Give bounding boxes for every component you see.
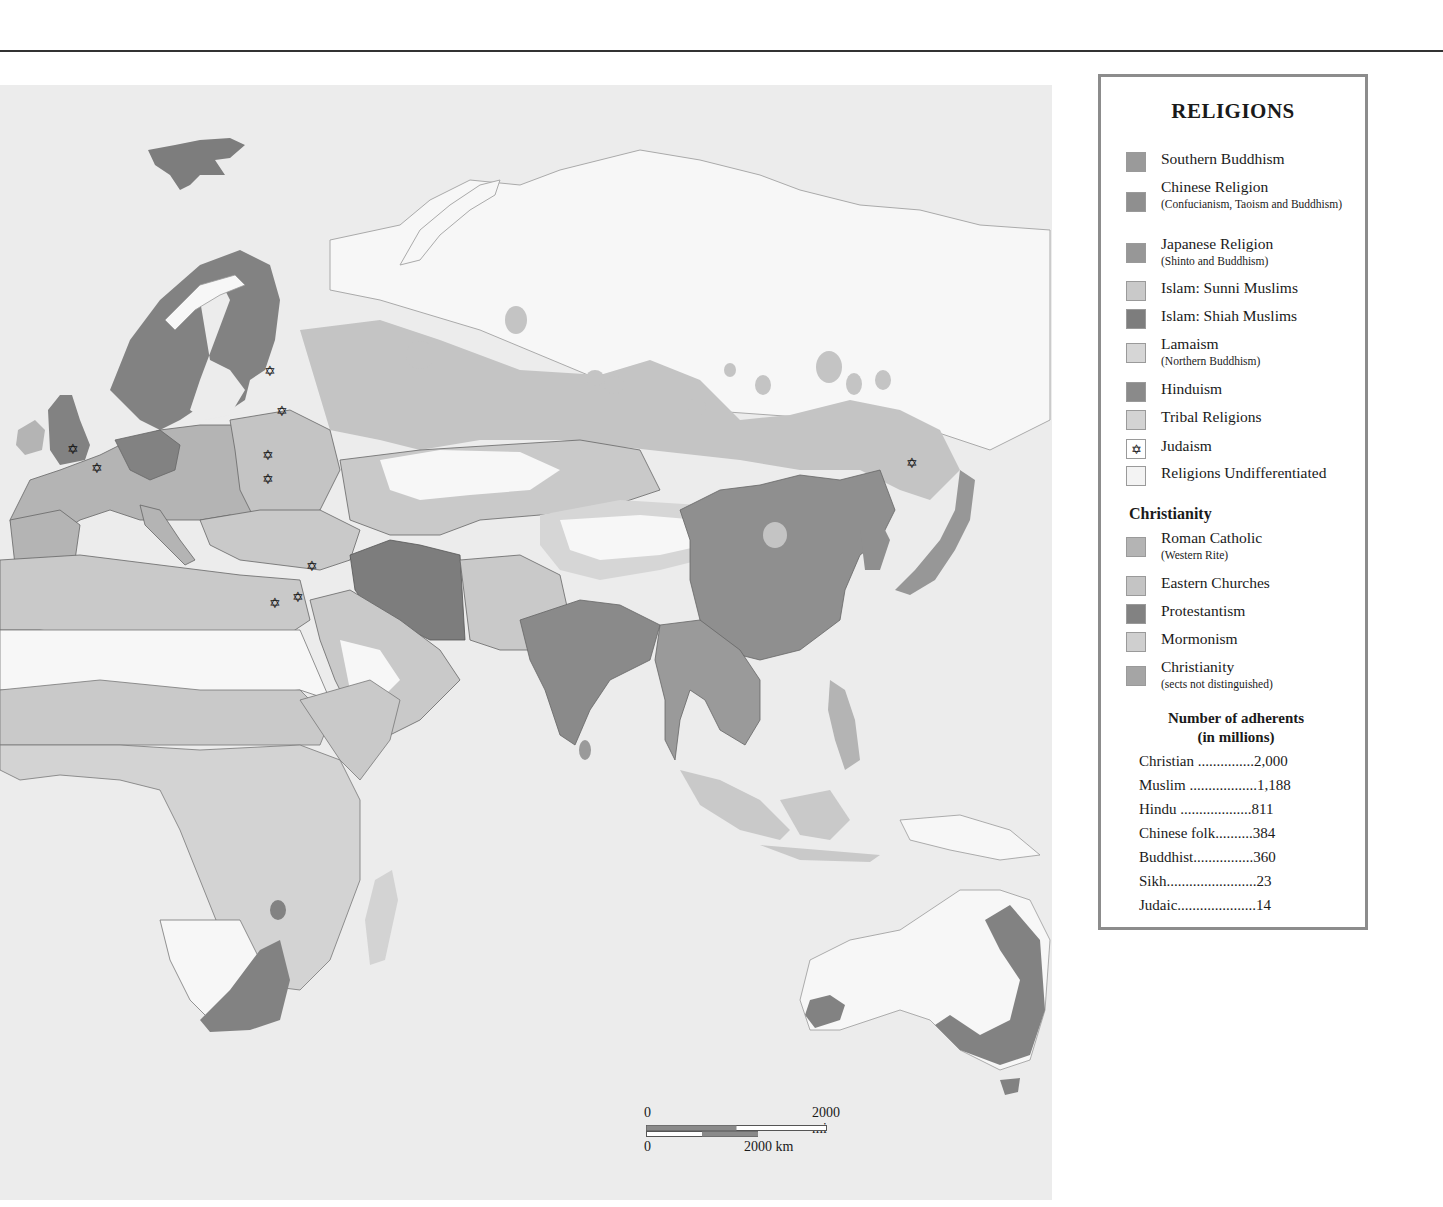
legend-panel: RELIGIONS Southern Buddhism Chinese Reli… xyxy=(1098,74,1368,930)
legend-label: Lamaism xyxy=(1161,335,1219,353)
star-of-david-icon: ✡ xyxy=(1126,439,1146,459)
adherents-row: Judaic.....................14 xyxy=(1139,897,1271,914)
adherents-row: Muslim ..................1,188 xyxy=(1139,777,1291,794)
star-of-david-icon: ✡ xyxy=(305,560,319,574)
adherents-dots: .......... xyxy=(1215,825,1253,841)
legend-label: Roman Catholic xyxy=(1161,529,1262,547)
map-graphic xyxy=(0,85,1052,1200)
adherents-name: Muslim xyxy=(1139,777,1186,793)
adherents-dots: ..................... xyxy=(1177,897,1256,913)
adherents-dots: ........................ xyxy=(1167,873,1257,889)
adherents-dots: ................ xyxy=(1193,849,1253,865)
star-of-david-icon: ✡ xyxy=(261,449,275,463)
adherents-name: Chinese folk xyxy=(1139,825,1215,841)
adherents-value: 811 xyxy=(1252,801,1274,817)
adherents-value: 14 xyxy=(1256,897,1271,913)
scale-bars-graphic xyxy=(646,1125,828,1139)
star-of-david-icon: ✡ xyxy=(261,473,275,487)
legend-label: Japanese Religion xyxy=(1161,235,1273,253)
adherents-row: Chinese folk..........384 xyxy=(1139,825,1275,842)
legend-label: Islam: Sunni Muslims xyxy=(1161,279,1298,297)
top-rule xyxy=(0,50,1443,52)
legend-sublabel: (Northern Buddhism) xyxy=(1161,355,1361,367)
legend-label: Islam: Shiah Muslims xyxy=(1161,307,1297,325)
legend-label: Mormonism xyxy=(1161,630,1238,648)
adherents-row: Hindu ...................811 xyxy=(1139,801,1273,818)
legend-sublabel: (Confucianism, Taoism and Buddhism) xyxy=(1161,198,1361,210)
adherents-name: Hindu xyxy=(1139,801,1177,817)
legend-label: Chinese Religion xyxy=(1161,178,1268,196)
scale-km-zero: 0 xyxy=(644,1139,651,1155)
star-of-david-icon: ✡ xyxy=(90,462,104,476)
star-of-david-icon: ✡ xyxy=(275,405,289,419)
scale-km-label: 2000 km xyxy=(744,1139,793,1155)
swatch-shiah xyxy=(1126,309,1146,329)
legend-label: Religions Undifferentiated xyxy=(1161,464,1326,482)
swatch-eastern-churches xyxy=(1126,576,1146,596)
star-of-david-icon: ✡ xyxy=(905,457,919,471)
scale-mi-zero: 0 xyxy=(644,1105,651,1121)
legend-title: RELIGIONS xyxy=(1101,99,1365,124)
star-of-david-icon: ✡ xyxy=(291,591,305,605)
adherents-dots: .................. xyxy=(1186,777,1257,793)
legend-sublabel: (Western Rite) xyxy=(1161,549,1361,561)
swatch-japanese-religion xyxy=(1126,243,1146,263)
adherents-title-line2: (in millions) xyxy=(1101,728,1371,747)
christianity-heading: Christianity xyxy=(1129,505,1212,523)
swatch-hinduism xyxy=(1126,382,1146,402)
adherents-dots: ................... xyxy=(1177,801,1252,817)
star-of-david-icon: ✡ xyxy=(268,597,282,611)
star-of-david-icon: ✡ xyxy=(66,443,80,457)
adherents-name: Judaic xyxy=(1139,897,1177,913)
adherents-title: Number of adherents (in millions) xyxy=(1101,709,1371,747)
legend-label: Judaism xyxy=(1161,437,1212,455)
swatch-mormonism xyxy=(1126,632,1146,652)
adherents-value: 1,188 xyxy=(1257,777,1291,793)
legend-label: Christianity xyxy=(1161,658,1234,676)
swatch-southern-buddhism xyxy=(1126,152,1146,172)
religions-map: ✡✡✡✡✡✡✡✡✡✡ xyxy=(0,85,1052,1200)
legend-label: Protestantism xyxy=(1161,602,1245,620)
scale-bar: 0 2000 mi 0 2000 km xyxy=(640,1105,840,1155)
legend-sublabel: (Shinto and Buddhism) xyxy=(1161,255,1361,267)
adherents-value: 2,000 xyxy=(1254,753,1288,769)
legend-sublabel: (sects not distinguished) xyxy=(1161,678,1361,690)
legend-label: Tribal Religions xyxy=(1161,408,1262,426)
swatch-chinese-religion xyxy=(1126,192,1146,212)
adherents-value: 384 xyxy=(1253,825,1276,841)
adherents-name: Buddhist xyxy=(1139,849,1193,865)
adherents-dots: ............... xyxy=(1194,753,1254,769)
adherents-name: Christian xyxy=(1139,753,1194,769)
legend-label: Eastern Churches xyxy=(1161,574,1270,592)
adherents-value: 360 xyxy=(1253,849,1276,865)
adherents-value: 23 xyxy=(1257,873,1272,889)
adherents-row: Christian ...............2,000 xyxy=(1139,753,1288,770)
swatch-sunni xyxy=(1126,281,1146,301)
swatch-undifferentiated xyxy=(1126,466,1146,486)
star-of-david-icon: ✡ xyxy=(263,365,277,379)
swatch-roman-catholic xyxy=(1126,537,1146,557)
swatch-lamaism xyxy=(1126,343,1146,363)
adherents-name: Sikh xyxy=(1139,873,1167,889)
adherents-title-line1: Number of adherents xyxy=(1101,709,1371,728)
adherents-row: Buddhist................360 xyxy=(1139,849,1276,866)
swatch-tribal xyxy=(1126,410,1146,430)
swatch-christianity-general xyxy=(1126,666,1146,686)
legend-label: Southern Buddhism xyxy=(1161,150,1285,168)
adherents-row: Sikh........................23 xyxy=(1139,873,1272,890)
legend-label: Hinduism xyxy=(1161,380,1222,398)
swatch-protestantism xyxy=(1126,604,1146,624)
